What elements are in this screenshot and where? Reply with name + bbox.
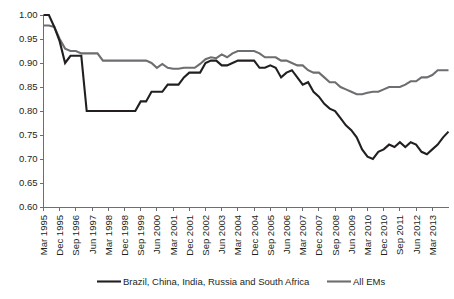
- x-tick-label: Mar 2010: [362, 215, 373, 255]
- x-tick-label: Jun 2012: [411, 215, 422, 254]
- x-tick-label: Mar 1998: [103, 215, 114, 255]
- chart-legend: Brazil, China, India, Russia and South A…: [97, 276, 385, 287]
- x-tick-label: Dec 2004: [249, 215, 260, 256]
- x-tick-label: Dec 2007: [313, 215, 324, 256]
- y-tick-label: 0.60: [19, 201, 38, 212]
- y-tick-label: 0.85: [19, 81, 38, 92]
- line-chart-figure: 1.000.950.900.850.800.750.700.650.60 Mar…: [0, 0, 454, 299]
- series-lines: [44, 15, 449, 159]
- x-tick-label: Sep 2008: [330, 215, 341, 256]
- y-axis: 1.000.950.900.850.800.750.700.650.60: [19, 9, 44, 212]
- x-tick-label: Mar 2004: [232, 215, 243, 255]
- y-tick-label: 0.80: [19, 105, 38, 116]
- x-tick-label: Sep 2002: [200, 215, 211, 256]
- legend-label-0: Brazil, China, India, Russia and South A…: [123, 276, 310, 287]
- x-tick-label: Dec 1995: [54, 215, 65, 256]
- x-tick-label: Jun 2009: [346, 215, 357, 254]
- y-tick-label: 0.75: [19, 129, 38, 140]
- y-tick-label: 0.95: [19, 33, 38, 44]
- y-tick-label: 0.65: [19, 177, 38, 188]
- x-tick-label: Jun 2000: [151, 215, 162, 254]
- x-tick-label: Mar 1995: [38, 215, 49, 255]
- x-tick-label: Sep 2005: [265, 215, 276, 256]
- x-tick-label: Sep 1996: [70, 215, 81, 256]
- x-tick-label: Dec 1998: [119, 215, 130, 256]
- x-tick-label: Sep 1999: [135, 215, 146, 256]
- x-tick-label: Jun 1997: [87, 215, 98, 254]
- x-tick-label: Sep 2011: [394, 215, 405, 255]
- x-tick-label: Mar 2007: [297, 215, 308, 255]
- x-tick-label: Jun 2003: [216, 215, 227, 254]
- chart-canvas: 1.000.950.900.850.800.750.700.650.60 Mar…: [0, 0, 454, 299]
- x-tick-label: Jun 2006: [281, 215, 292, 254]
- y-tick-label: 0.70: [19, 153, 38, 164]
- x-tick-label: Dec 2010: [378, 215, 389, 256]
- x-tick-label: Mar 2013: [427, 215, 438, 255]
- x-tick-label: Dec 2001: [184, 215, 195, 256]
- x-tick-label: Mar 2001: [168, 215, 179, 255]
- legend-label-1: All EMs: [353, 276, 385, 287]
- y-tick-label: 0.90: [19, 57, 38, 68]
- y-tick-label: 1.00: [19, 9, 38, 20]
- x-axis: Mar 1995Dec 1995Sep 1996Jun 1997Mar 1998…: [38, 207, 449, 256]
